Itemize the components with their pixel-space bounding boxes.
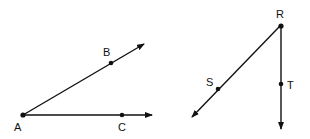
point-b — [109, 61, 114, 66]
point-t — [279, 82, 284, 87]
point-c — [120, 113, 125, 118]
geometry-diagram: A B C R S T — [0, 0, 310, 139]
ray-rs — [192, 26, 280, 117]
point-a — [20, 112, 25, 117]
label-t: T — [287, 79, 294, 91]
label-a: A — [14, 121, 22, 133]
label-b: B — [103, 46, 110, 58]
label-c: C — [118, 121, 126, 133]
point-r — [278, 23, 283, 28]
label-r: R — [276, 8, 284, 20]
point-s — [216, 87, 221, 92]
angle-srt: R S T — [192, 8, 294, 129]
ray-ab — [23, 44, 144, 115]
angle-bac: A B C — [14, 44, 152, 133]
label-s: S — [206, 76, 213, 88]
